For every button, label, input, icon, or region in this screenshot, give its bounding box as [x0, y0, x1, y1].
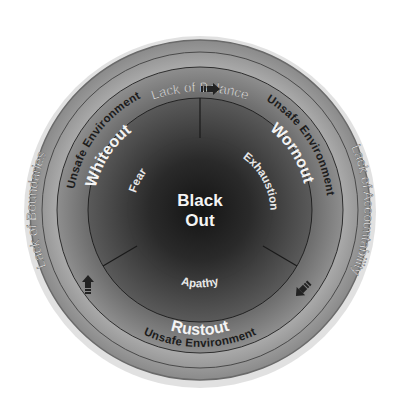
burnout-wheel-diagram: Lack of Balance Lack of Boundaries Lack …	[0, 0, 405, 417]
center-label-line2: Out	[185, 211, 215, 230]
center-label-line1: Black	[177, 191, 223, 210]
